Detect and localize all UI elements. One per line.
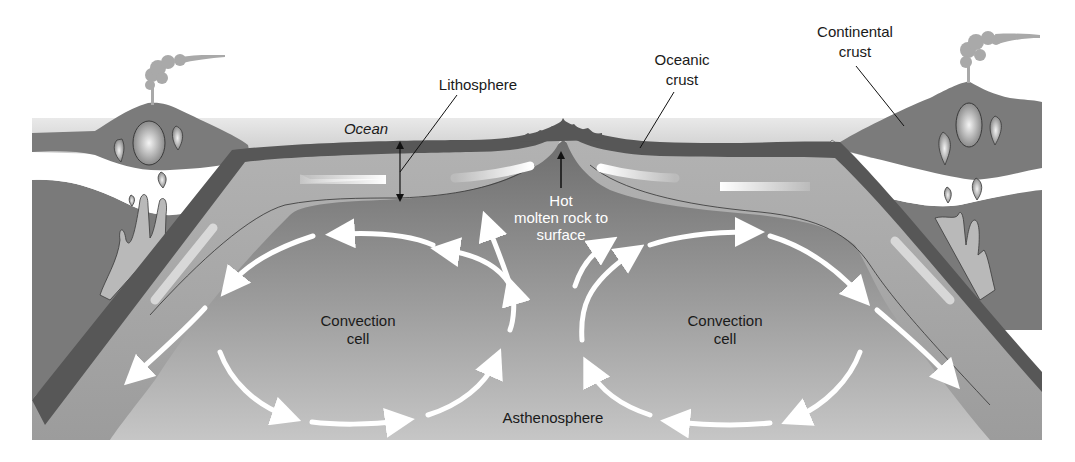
convection-cell-left-label: Convection — [320, 312, 395, 329]
continental-crust-leader-line — [856, 66, 904, 126]
plate-arrow-left-outer-shaft — [300, 175, 386, 184]
continental-crust-label: crust — [839, 43, 872, 60]
convection-cell-right-label: cell — [714, 330, 737, 347]
oceanic-crust-label: Oceanic — [654, 51, 710, 68]
lithosphere-label: Lithosphere — [439, 76, 517, 93]
oceanic-crust-label: crust — [666, 71, 699, 88]
left-magma-chamber — [133, 121, 165, 165]
convection-cell-left-label: cell — [347, 330, 370, 347]
right-volcano-smoke — [960, 31, 1040, 83]
convection-diagram: Lithosphere Ocean Oceanic crust Continen… — [0, 0, 1075, 462]
right-magma-chamber — [956, 103, 982, 147]
hot-rock-label: molten rock to — [514, 209, 608, 226]
convection-cell-right-label: Convection — [687, 312, 762, 329]
plate-arrow-right-outer — [720, 182, 810, 191]
hot-rock-label: surface — [536, 226, 585, 243]
ocean-label: Ocean — [344, 120, 388, 137]
continental-crust-label: Continental — [817, 23, 893, 40]
hot-rock-label: Hot — [549, 192, 573, 209]
left-volcano-smoke — [145, 54, 225, 105]
asthenosphere-label: Asthenosphere — [503, 409, 604, 426]
